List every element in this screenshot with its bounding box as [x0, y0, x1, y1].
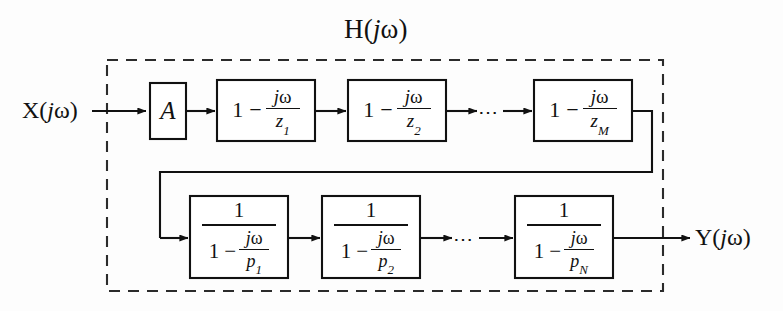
- system-label-fn: H: [344, 14, 364, 44]
- input-port-fn: X: [22, 97, 39, 123]
- pole-block-1-box: [190, 196, 288, 278]
- zero-block-2-box: [348, 80, 446, 141]
- diagram-vector-layer: [0, 0, 783, 311]
- bottom-row-ellipsis: ⋯: [453, 227, 475, 251]
- pole-block-n-box: [515, 196, 613, 278]
- system-label-j: j: [373, 14, 381, 44]
- output-port-fn: Y: [695, 224, 712, 250]
- input-port-j: j: [47, 97, 54, 123]
- input-port-omega: ω: [54, 97, 70, 123]
- pole-block-2-box: [322, 196, 420, 278]
- system-label-open-paren: (: [364, 14, 373, 44]
- system-label-omega: ω: [381, 14, 399, 44]
- output-port-omega: ω: [727, 224, 743, 250]
- system-label-close-paren: ): [399, 14, 408, 44]
- system-label: H(jω): [344, 16, 408, 43]
- input-port-label: X(jω): [22, 98, 78, 122]
- zero-block-m-box: [534, 80, 632, 141]
- gain-block-box: [150, 83, 186, 139]
- output-port-j: j: [720, 224, 727, 250]
- block-diagram-figure: H(jω) X(jω) Y(jω) A 1 − jω z1 1 − jω: [0, 0, 783, 311]
- zero-block-1-box: [217, 80, 315, 141]
- input-port-close-paren: ): [70, 97, 78, 123]
- top-row-ellipsis: ⋯: [478, 100, 500, 124]
- output-port-close-paren: ): [743, 224, 751, 250]
- output-port-label: Y(jω): [695, 225, 751, 249]
